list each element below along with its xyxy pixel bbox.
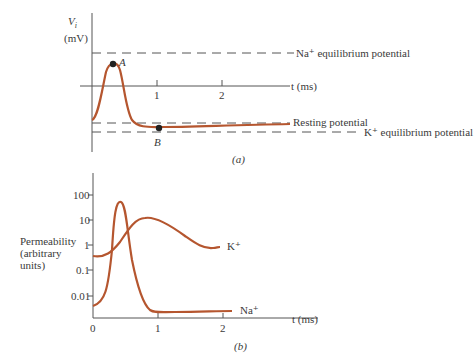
- point-a-marker: [110, 61, 116, 67]
- y-axis-unit: (mV): [64, 32, 88, 44]
- k-equilibrium-label: K⁺ equilibrium potential: [364, 126, 473, 138]
- figure: Vi (mV) A B 1 2 t (ms) Na⁺ equilibrium p…: [0, 0, 476, 363]
- y-axis-label-arbitrary: (arbitrary: [20, 247, 62, 259]
- y-axis-label-permeability: Permeability: [20, 235, 76, 247]
- panel-a-axes: [80, 13, 290, 152]
- y-tick-0.01: 0.01: [71, 290, 90, 302]
- resting-potential-label: Resting potential: [293, 116, 368, 128]
- x-tick-2: 2: [219, 89, 225, 101]
- action-potential-curve: [92, 63, 290, 127]
- y-tick-10: 10: [79, 214, 90, 226]
- y-tick-0.1: 0.1: [76, 264, 90, 276]
- point-a-label: A: [119, 56, 126, 68]
- k-series-label: K⁺: [227, 240, 241, 252]
- x-tick-1-b: 1: [155, 322, 161, 334]
- y-tick-100: 100: [73, 189, 90, 201]
- x-tick-2-b: 2: [220, 322, 226, 334]
- point-b-marker: [156, 125, 162, 131]
- na-permeability-curve: [93, 202, 232, 312]
- panel-a-caption: (a): [232, 153, 245, 165]
- y-axis-label-units: units): [20, 259, 45, 271]
- na-series-label: Na⁺: [240, 304, 259, 316]
- x-axis-label-a: t (ms): [291, 80, 317, 92]
- x-tick-0: 0: [90, 322, 96, 334]
- point-b-label: B: [154, 136, 161, 148]
- na-equilibrium-label: Na⁺ equilibrium potential: [296, 47, 410, 59]
- x-axis-label-b: t (ms): [292, 313, 318, 325]
- y-axis-label-vi: Vi: [68, 15, 77, 32]
- y-tick-1: 1: [84, 239, 90, 251]
- panel-b-axes: [88, 173, 318, 318]
- panel-b-caption: (b): [234, 340, 247, 352]
- x-tick-1: 1: [154, 89, 160, 101]
